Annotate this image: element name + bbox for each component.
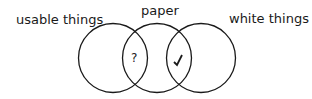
venn-diagram: usable things paper white things ? [0, 0, 312, 99]
label-usable-things: usable things [16, 12, 103, 27]
circle-white-things [167, 24, 236, 93]
question-mark: ? [131, 51, 137, 65]
label-paper: paper [141, 3, 179, 18]
check-mark-icon [174, 55, 182, 65]
label-white-things: white things [229, 11, 309, 26]
